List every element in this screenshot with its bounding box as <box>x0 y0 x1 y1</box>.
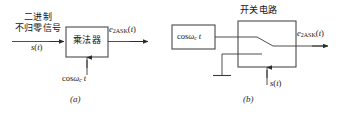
part-a-carrier-label: cosωc t <box>62 74 86 83</box>
part-a-input-label-line2: 不归零信号 <box>6 23 70 34</box>
part-b-source-label: cosωc t <box>177 32 201 41</box>
switch-circuit-title: 开关电路 <box>240 6 277 15</box>
part-b-output-label: e2ASK(t) <box>297 29 324 38</box>
part-a-input-label: 二进制 不归零信号 <box>6 12 70 34</box>
ground-wire <box>222 54 238 75</box>
part-a-output-label: e2ASK(t) <box>109 25 136 34</box>
figure-2ask-modulator: 二进制 不归零信号 s(t) 乘法器 cosωc t e2ASK(t) (a) … <box>0 0 340 116</box>
part-b-control-signal-label: s(t) <box>270 79 281 88</box>
part-b-caption: (b) <box>243 95 254 104</box>
multiplier-block-label: 乘法器 <box>69 36 105 45</box>
part-a-caption: (a) <box>70 95 81 104</box>
part-a-input-signal-label: s(t) <box>31 43 42 52</box>
switch-circuit-block <box>238 21 296 67</box>
part-a-input-label-line1: 二进制 <box>6 12 70 23</box>
